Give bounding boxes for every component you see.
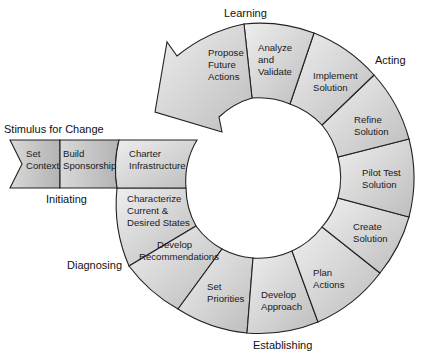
svg-text:Analyze: Analyze xyxy=(258,42,292,53)
label-pilot-test: Pilot Test Solution xyxy=(362,167,401,190)
phase-initiating-label: Initiating xyxy=(46,193,87,205)
svg-text:Infrastructure: Infrastructure xyxy=(129,160,186,171)
phase-stimulus-label: Stimulus for Change xyxy=(4,123,104,135)
svg-text:Sponsorship: Sponsorship xyxy=(63,160,116,171)
svg-text:Implement: Implement xyxy=(313,70,358,81)
svg-text:Approach: Approach xyxy=(261,301,302,312)
svg-text:Validate: Validate xyxy=(258,66,292,77)
svg-text:Solution: Solution xyxy=(354,126,389,137)
label-develop-approach: Develop Approach xyxy=(261,289,302,312)
svg-text:and: and xyxy=(258,54,274,65)
svg-text:Actions: Actions xyxy=(313,279,345,290)
svg-text:Solution: Solution xyxy=(313,82,348,93)
svg-text:Refine: Refine xyxy=(354,114,382,125)
svg-text:Set: Set xyxy=(207,281,222,292)
svg-text:Develop: Develop xyxy=(157,239,192,250)
svg-text:Propose: Propose xyxy=(208,47,244,58)
svg-text:Desired States: Desired States xyxy=(127,217,190,228)
svg-text:Build: Build xyxy=(63,148,84,159)
svg-text:Context: Context xyxy=(26,160,59,171)
svg-text:Future: Future xyxy=(208,59,236,70)
svg-text:Charter: Charter xyxy=(129,148,162,159)
phase-acting-label: Acting xyxy=(375,54,406,66)
ideal-cycle-diagram: Stimulus for Change Initiating Diagnosin… xyxy=(0,0,421,354)
svg-text:Solution: Solution xyxy=(362,179,397,190)
svg-text:Develop: Develop xyxy=(261,289,296,300)
svg-text:Actions: Actions xyxy=(208,71,240,82)
svg-text:Recommendations: Recommendations xyxy=(139,251,219,262)
phase-establishing-label: Establishing xyxy=(253,339,312,351)
svg-text:Priorities: Priorities xyxy=(207,293,245,304)
phase-diagnosing-label: Diagnosing xyxy=(67,259,122,271)
svg-text:Current &: Current & xyxy=(127,205,169,216)
svg-text:Solution: Solution xyxy=(353,233,388,244)
svg-text:Characterize: Characterize xyxy=(127,193,181,204)
svg-text:Pilot Test: Pilot Test xyxy=(362,167,401,178)
svg-text:Set: Set xyxy=(26,148,41,159)
svg-text:Create: Create xyxy=(353,221,382,232)
phase-learning-label: Learning xyxy=(224,7,267,19)
svg-text:Plan: Plan xyxy=(313,267,332,278)
